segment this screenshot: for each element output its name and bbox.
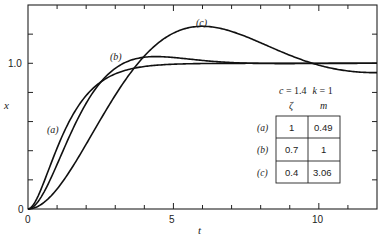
table-row-label-b: (b) xyxy=(257,145,268,156)
table-cell-c-m: 3.06 xyxy=(313,167,332,178)
y-axis-label: x xyxy=(3,99,9,111)
table-row-label-c: (c) xyxy=(257,168,268,179)
y-tick-label-0: 0 xyxy=(18,204,24,215)
curve-label-c: (c) xyxy=(196,17,208,29)
table-cell-b-zeta: 0.7 xyxy=(285,144,298,155)
curve-label-b: (b) xyxy=(110,51,122,63)
x-tick-label-0: 0 xyxy=(25,214,31,225)
table-header-zeta: ζ xyxy=(289,100,294,112)
param-k-value: = 1 xyxy=(317,85,333,96)
x-tick-label-10: 10 xyxy=(312,214,324,225)
table-cell-b-m: 1 xyxy=(321,144,326,155)
curve-label-a: (a) xyxy=(47,124,59,136)
x-tick-label-5: 5 xyxy=(169,214,175,225)
x-axis-label: t xyxy=(198,224,202,236)
table-cell-a-zeta: 1 xyxy=(289,122,294,133)
param-c-value: = 1.4 xyxy=(283,85,306,96)
y-tick-label-1: 1.0 xyxy=(8,58,22,69)
table-cell-c-zeta: 0.4 xyxy=(285,167,298,178)
table-header-m: m xyxy=(320,100,327,111)
step-response-chart: 1.0 0 0 5 10 x t (a) (b) (c) c = 1.4k = … xyxy=(0,0,382,237)
parameter-table: ζ m (a) 1 0.49 (b) 0.7 1 (c) 0.4 3.06 xyxy=(257,100,340,183)
parameter-text: c = 1.4k = 1 xyxy=(279,85,333,96)
curve-c xyxy=(28,26,377,209)
table-row-label-a: (a) xyxy=(257,123,268,134)
table-cell-a-m: 0.49 xyxy=(314,122,333,133)
